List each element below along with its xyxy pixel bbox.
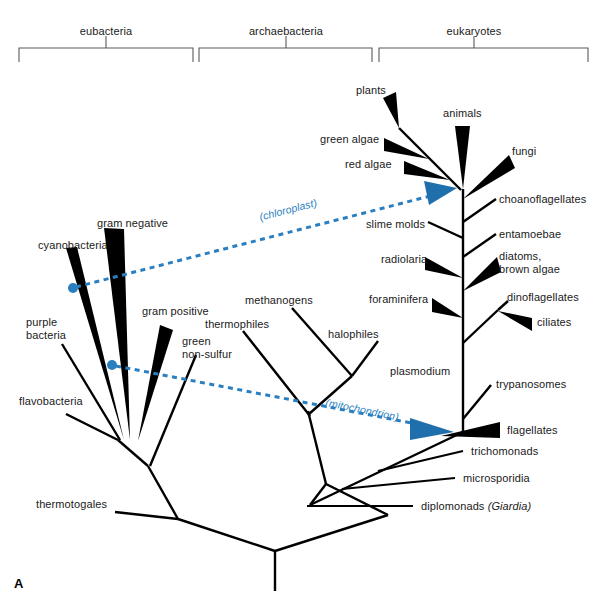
taxon-label-gram-negative: gram negative xyxy=(97,217,168,230)
archaea-internal-1 xyxy=(308,411,326,484)
domain-label-eukaryotes: eukaryotes xyxy=(424,25,524,38)
taxon-label-plants: plants xyxy=(356,84,386,97)
methanogens-branch xyxy=(292,308,352,376)
taxon-label-green-algae: green algae xyxy=(320,133,379,146)
bracket-archaebacteria xyxy=(199,36,372,62)
diplomonads-text: diplomonads xyxy=(421,500,488,512)
taxon-label-diplomonads: diplomonads (Giardia) xyxy=(421,500,531,513)
taxon-label-radiolaria: radiolaria xyxy=(381,253,427,266)
taxon-label-halophiles: halophiles xyxy=(328,328,379,341)
domain-brackets xyxy=(19,36,588,62)
domain-label-archaebacteria: archaebacteria xyxy=(226,25,346,38)
deep-branch-bacteria xyxy=(178,519,275,551)
foraminifera-wedge xyxy=(432,298,463,318)
taxon-label-microsporidia: microsporidia xyxy=(463,472,530,485)
taxon-label-diatoms-brown-algae: diatoms, brown algae xyxy=(499,250,560,275)
eubacteria-internal-2 xyxy=(118,440,148,466)
thermotogales-branch xyxy=(115,512,178,519)
radiolaria-wedge xyxy=(425,257,463,278)
diatoms-wedge xyxy=(463,257,501,291)
taxon-label-plasmodium: plasmodium xyxy=(390,365,450,378)
entamoebae-branch xyxy=(463,234,496,257)
taxon-label-slime-molds: slime molds xyxy=(366,218,425,231)
plants-wedge xyxy=(383,92,399,128)
trypanosomes-branch xyxy=(463,385,491,419)
chloroplast-arrowhead xyxy=(424,181,457,205)
diplomonads-genus: (Giardia) xyxy=(488,500,532,512)
halophiles-branch xyxy=(352,341,378,376)
trichomonads-leader xyxy=(378,451,463,471)
eubacteria-clade xyxy=(62,228,196,519)
taxon-label-gram-positive: gram positive xyxy=(142,305,209,318)
green-algae-wedge xyxy=(384,138,429,159)
dino-ciliate-stem xyxy=(463,310,498,343)
taxon-label-trichomonads: trichomonads xyxy=(471,445,538,458)
taxon-label-entamoebae: entamoebae xyxy=(499,228,561,241)
taxon-label-thermotogales: thermotogales xyxy=(36,498,107,511)
taxon-label-flavobacteria: flavobacteria xyxy=(19,395,83,408)
taxon-label-choanoflagellates: choanoflagellates xyxy=(499,193,586,206)
choanoflagellates-branch xyxy=(463,199,496,222)
flagellates-wedge xyxy=(441,422,500,438)
taxon-label-cyanobacteria: cyanobacteria xyxy=(38,239,108,252)
taxon-label-purple-bacteria: purple bacteria xyxy=(26,316,66,341)
phylogenetic-tree-figure: .branch { stroke: #000; stroke-width: 2.… xyxy=(0,0,601,602)
chloroplast-origin-dot xyxy=(68,283,78,293)
thermophiles-branch xyxy=(243,331,310,416)
transfer-chloroplast xyxy=(68,181,457,293)
taxon-label-trypanosomes: trypanosomes xyxy=(496,378,566,391)
taxon-label-fungi: fungi xyxy=(512,145,536,158)
chloroplast-dotted-line xyxy=(76,194,438,287)
gram-negative-wedge xyxy=(104,228,130,440)
taxon-label-ciliates: ciliates xyxy=(537,316,571,329)
ciliates-wedge xyxy=(498,311,532,331)
taxon-label-dinoflagellates: dinoflagellates xyxy=(507,291,579,304)
taxon-label-methanogens: methanogens xyxy=(245,294,313,307)
microsporidia-leader xyxy=(342,478,455,489)
archaea-stem xyxy=(326,484,388,515)
mitochondrion-arrowhead xyxy=(410,418,454,440)
eubacteria-internal-1 xyxy=(148,466,178,519)
bracket-eubacteria xyxy=(19,36,193,62)
root-branches xyxy=(178,515,388,591)
domain-label-eubacteria: eubacteria xyxy=(56,25,156,38)
deep-branch-archaea-eukaryote xyxy=(275,515,388,551)
animals-wedge xyxy=(455,126,470,189)
taxon-label-animals: animals xyxy=(443,107,482,120)
taxon-label-thermophiles: thermophiles xyxy=(205,318,269,331)
taxon-label-flagellates: flagellates xyxy=(507,424,558,437)
taxon-label-green-non-sulfur: green non-sulfur xyxy=(182,335,232,360)
taxon-label-red-algae: red algae xyxy=(345,158,392,171)
bracket-eukaryotes xyxy=(379,36,588,62)
slime-molds-branch xyxy=(428,222,463,238)
mitochondrion-origin-dot xyxy=(107,360,117,370)
panel-letter-a: A xyxy=(14,576,23,591)
plant-algae-stem xyxy=(399,128,461,190)
taxon-label-foraminifera: foraminifera xyxy=(369,293,428,306)
flavobacteria-branch xyxy=(66,414,118,440)
